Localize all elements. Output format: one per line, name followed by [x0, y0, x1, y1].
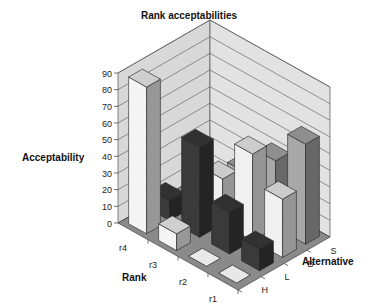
x-tick-label: r4 — [119, 243, 127, 253]
x-tick-label: r3 — [149, 260, 157, 270]
y-tick-label: 60 — [102, 119, 112, 129]
y-tick-label: 20 — [102, 185, 112, 195]
y-tick-label: 10 — [102, 202, 112, 212]
x-tick-label: r1 — [209, 294, 217, 304]
y-tick-label: 90 — [102, 69, 112, 79]
bar-r3-L — [182, 129, 214, 237]
bar-r2-L — [212, 194, 244, 254]
y-tick-label: 80 — [102, 85, 112, 95]
plot-area: 0102030405060708090r4r3r2r1HLBS — [0, 0, 378, 306]
z-tick-label: S — [331, 246, 337, 256]
z-tick-label: L — [285, 272, 290, 282]
z-tick-label: B — [308, 259, 314, 269]
y-tick-label: 30 — [102, 169, 112, 179]
y-tick-label: 70 — [102, 102, 112, 112]
y-tick-label: 50 — [102, 135, 112, 145]
y-tick-label: 0 — [107, 219, 112, 229]
x-tick-label: r2 — [179, 277, 187, 287]
y-tick-label: 40 — [102, 152, 112, 162]
y-axis: 0102030405060708090 — [102, 69, 118, 229]
bar-r4-H — [129, 69, 161, 234]
z-tick-label: H — [262, 285, 269, 295]
chart: Rank acceptabilities Acceptability Rank … — [0, 0, 378, 306]
